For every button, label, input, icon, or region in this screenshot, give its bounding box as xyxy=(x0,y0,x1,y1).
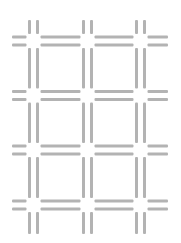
vertical-bar xyxy=(36,48,39,89)
vertical-bar xyxy=(143,48,146,89)
vertical-bar xyxy=(135,20,138,34)
horizontal-bar xyxy=(41,90,81,93)
horizontal-bar xyxy=(12,145,27,148)
horizontal-bar xyxy=(95,44,134,47)
horizontal-bar xyxy=(12,90,27,93)
horizontal-bar xyxy=(95,36,134,39)
horizontal-bar xyxy=(148,153,169,156)
vertical-bar xyxy=(90,20,93,34)
vertical-bar xyxy=(90,212,93,234)
horizontal-bar xyxy=(148,200,169,203)
vertical-bar xyxy=(143,157,146,198)
vertical-bar xyxy=(135,103,138,144)
horizontal-bar xyxy=(12,98,27,101)
vertical-bar xyxy=(36,20,39,34)
vertical-bar xyxy=(135,48,138,89)
horizontal-bar xyxy=(41,98,81,101)
vertical-bar xyxy=(36,157,39,198)
horizontal-bar xyxy=(12,36,27,39)
cross-grid-pattern xyxy=(0,0,181,243)
vertical-bar xyxy=(143,212,146,234)
vertical-bar xyxy=(28,48,31,89)
vertical-bar xyxy=(82,48,85,89)
vertical-bar xyxy=(28,157,31,198)
vertical-bar xyxy=(90,157,93,198)
horizontal-bar xyxy=(41,145,81,148)
vertical-bar xyxy=(82,212,85,234)
horizontal-bar xyxy=(41,36,81,39)
vertical-bar xyxy=(143,20,146,34)
horizontal-bar xyxy=(12,44,27,47)
horizontal-bar xyxy=(95,153,134,156)
vertical-bar xyxy=(82,157,85,198)
horizontal-bar xyxy=(12,153,27,156)
vertical-bar xyxy=(90,103,93,144)
vertical-bar xyxy=(28,103,31,144)
vertical-bar xyxy=(143,103,146,144)
horizontal-bar xyxy=(95,145,134,148)
vertical-bar xyxy=(28,212,31,234)
horizontal-bar xyxy=(41,44,81,47)
horizontal-bar xyxy=(148,145,169,148)
horizontal-bar xyxy=(148,98,169,101)
vertical-bar xyxy=(82,103,85,144)
horizontal-bar xyxy=(41,208,81,211)
horizontal-bar xyxy=(148,44,169,47)
horizontal-bar xyxy=(95,200,134,203)
horizontal-bar xyxy=(148,90,169,93)
horizontal-bar xyxy=(148,208,169,211)
horizontal-bar xyxy=(12,208,27,211)
vertical-bar xyxy=(36,103,39,144)
horizontal-bar xyxy=(12,200,27,203)
vertical-bar xyxy=(135,212,138,234)
horizontal-bar xyxy=(41,200,81,203)
horizontal-bar xyxy=(95,90,134,93)
horizontal-bar xyxy=(95,98,134,101)
vertical-bar xyxy=(90,48,93,89)
horizontal-bar xyxy=(41,153,81,156)
horizontal-bar xyxy=(148,36,169,39)
vertical-bar xyxy=(82,20,85,34)
vertical-bar xyxy=(36,212,39,234)
vertical-bar xyxy=(28,20,31,34)
pattern-graphic xyxy=(0,0,181,243)
horizontal-bar xyxy=(95,208,134,211)
vertical-bar xyxy=(135,157,138,198)
